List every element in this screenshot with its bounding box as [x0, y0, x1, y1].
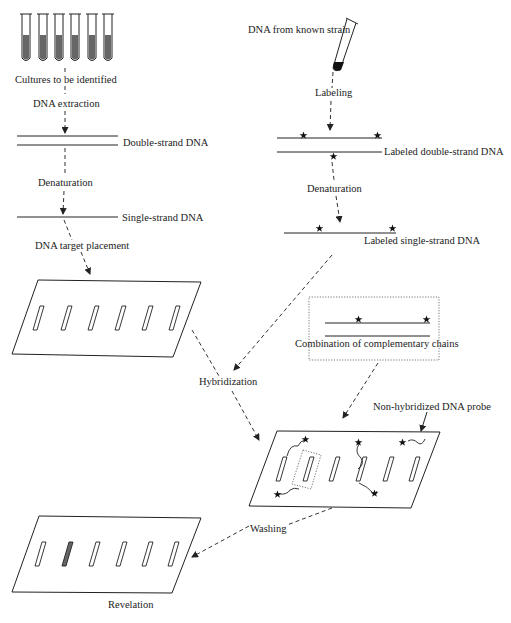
target-slots: [33, 306, 180, 330]
label-star-icon: [423, 315, 431, 322]
revelation-label: Revelation: [108, 599, 154, 610]
test-tube-icon: [37, 14, 49, 61]
label-star-icon: [389, 224, 397, 231]
target-slots: [35, 542, 179, 566]
hybridized-membrane: [249, 431, 440, 508]
dna-target-placement-label: DNA target placement: [35, 240, 129, 251]
complementary-chains-box: Combination of complementary chains: [295, 297, 459, 360]
membrane-with-targets: [12, 280, 201, 357]
label-star-icon: [355, 315, 363, 322]
label-star-icon: [316, 224, 324, 231]
labeled-single-strand-label: Labeled single-strand DNA: [364, 235, 480, 246]
probe-star-icon: [399, 438, 407, 445]
labeled-double-strand-label: Labeled double-strand DNA: [384, 146, 504, 157]
revealed-slot: [62, 542, 73, 566]
labeled-single-strand-dna: [284, 224, 396, 233]
label-star-icon: [330, 152, 338, 159]
free-probes: [274, 435, 425, 497]
double-strand-dna: [17, 136, 118, 145]
known-strain-label: DNA from known strain: [248, 24, 351, 35]
target-slots: [276, 457, 420, 481]
non-hybridized-probe-label: Non-hybridized DNA probe: [373, 401, 491, 412]
labeling-label: Labeling: [315, 87, 353, 98]
test-tube-icon: [53, 14, 65, 61]
cultures-label: Cultures to be identified: [15, 74, 118, 85]
probe-star-icon: [302, 435, 310, 442]
double-strand-label: Double-strand DNA: [123, 137, 209, 148]
dna-hybridization-diagram: Cultures to be identified DNA extraction…: [0, 0, 511, 623]
culture-tubes: [20, 14, 114, 61]
denaturation-right-label: Denaturation: [307, 183, 363, 194]
test-tube-icon: [102, 14, 114, 61]
single-strand-label: Single-strand DNA: [122, 212, 204, 223]
test-tube-icon: [69, 14, 81, 61]
hybridization-label: Hybridization: [199, 376, 258, 387]
labeled-double-strand-dna: [277, 131, 382, 159]
probe-star-icon: [371, 489, 379, 496]
washing-label: Washing: [250, 523, 287, 534]
test-tube-icon: [86, 14, 98, 61]
complementary-chains-label: Combination of complementary chains: [295, 338, 459, 349]
test-tube-icon: [20, 14, 32, 61]
denaturation-left-label: Denaturation: [38, 177, 94, 188]
revealed-membrane: [12, 516, 201, 593]
dna-extraction-label: DNA extraction: [33, 98, 101, 109]
